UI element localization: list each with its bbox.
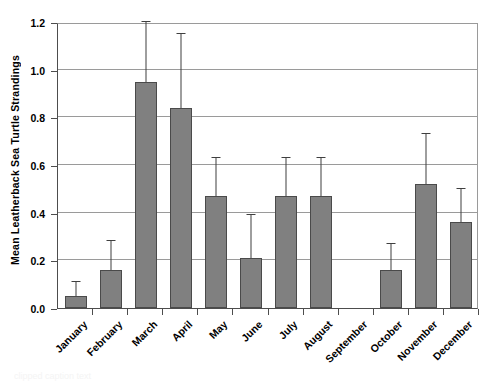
x-axis-tick-mark [268,309,269,315]
error-bar-whisker [286,158,287,196]
x-axis-tick-label: March [129,318,159,348]
bar-group [339,24,374,308]
bar [275,196,297,308]
x-axis-tick-mark [478,309,479,315]
x-axis-tick-mark [373,309,374,315]
error-bar-whisker [215,158,216,196]
x-axis-tick-label: May [206,318,229,341]
error-bar-whisker [75,282,76,296]
y-axis-tick-label: 0.8 [11,113,45,124]
error-bar-whisker [426,134,427,184]
error-bar-whisker [250,215,251,258]
x-axis-tick-label: July [276,318,299,341]
y-axis-tick-mark [51,309,57,310]
error-bar-whisker [321,158,322,196]
y-axis-tick-label: 0.2 [11,256,45,267]
x-axis-tick-label: April [169,318,194,343]
bar-group [444,24,479,308]
caption-remnant: clipped caption text [14,371,474,381]
bar-group [374,24,409,308]
error-bar-cap [457,188,466,189]
bar [205,196,227,308]
plot-area [57,23,478,309]
bar-group [409,24,444,308]
error-bar-cap [106,240,115,241]
x-axis-tick-label: February [84,318,124,358]
x-axis-tick-mark [303,309,304,315]
bar [170,108,192,308]
bar [65,296,87,308]
error-bar-whisker [145,22,146,82]
error-bar-cap [246,214,255,215]
x-axis-tick-mark [92,309,93,315]
error-bar-whisker [180,34,181,108]
y-axis-tick-label: 0.0 [11,304,45,315]
bar-group [163,24,198,308]
error-bar-cap [282,157,291,158]
bar-group [198,24,233,308]
error-bar-cap [422,133,431,134]
y-axis-tick-label: 1.0 [11,65,45,76]
error-bar-whisker [461,189,462,222]
y-axis-tick-label: 0.4 [11,208,45,219]
x-axis-tick-mark [338,309,339,315]
error-bar-whisker [391,244,392,270]
x-axis-tick-mark [408,309,409,315]
error-bar-cap [141,21,150,22]
chart-figure: Mean Leatherback Sea Turtle Strandings 0… [0,0,492,381]
y-axis-tick-label: 0.6 [11,161,45,172]
bar [100,270,122,308]
x-axis-tick-mark [162,309,163,315]
bar [415,184,437,308]
bar-group [233,24,268,308]
x-axis-tick-label: August [301,318,335,352]
bar-group [58,24,93,308]
x-axis-tick-mark [443,309,444,315]
y-axis-tick-label: 1.2 [11,18,45,29]
bar [380,270,402,308]
x-axis-tick-mark [127,309,128,315]
error-bar-cap [211,157,220,158]
bar [135,82,157,308]
error-bar-cap [317,157,326,158]
bar [450,222,472,308]
x-axis-tick-mark [232,309,233,315]
bar [240,258,262,308]
error-bar-cap [176,33,185,34]
bar-group [269,24,304,308]
x-axis-tick-mark [197,309,198,315]
bar-group [304,24,339,308]
bar [310,196,332,308]
bar-group [128,24,163,308]
bar-group [93,24,128,308]
error-bar-cap [387,243,396,244]
error-bar-cap [71,281,80,282]
error-bar-whisker [110,241,111,270]
x-axis-tick-label: June [239,318,265,344]
